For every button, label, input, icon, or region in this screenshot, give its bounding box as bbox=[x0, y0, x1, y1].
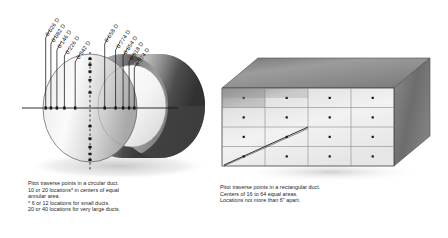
box-top-face bbox=[222, 58, 430, 88]
circular-caption-line-5: 20 or 40 locations for very large ducts. bbox=[28, 206, 120, 213]
rect-caption-line-2: Centers of 16 to 64 equal areas. bbox=[220, 191, 320, 198]
circular-caption-line-1: Pitot traverse points in a circular duct… bbox=[28, 180, 120, 187]
rect-caption-line-1: Pitot traverse points in a rectangular d… bbox=[220, 184, 320, 191]
box-inner-shade-2 bbox=[222, 88, 308, 98]
circular-duct-caption: Pitot traverse points in a circular duct… bbox=[28, 180, 120, 213]
figure-canvas: 0.026 D 0.082 D 0.146 D 0.226 D 0.342 D … bbox=[0, 0, 448, 238]
circular-caption-line-2: 10 or 20 locations* in centers of equal bbox=[28, 187, 120, 194]
circular-caption-line-4: * 6 or 12 locations for small ducts. bbox=[28, 200, 120, 207]
circular-caption-line-3: annular area. bbox=[28, 193, 120, 200]
rect-caption-line-3: Locations not more than 6" apart. bbox=[220, 197, 320, 204]
rect-duct-caption: Pitot traverse points in a rectangular d… bbox=[220, 184, 320, 204]
